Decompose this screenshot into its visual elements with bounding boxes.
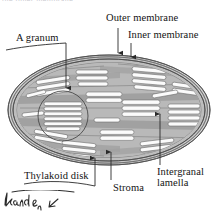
chloroplast-figure: the inner membrane	[0, 0, 219, 213]
label-outer-membrane: Outer membrane	[106, 12, 178, 23]
handwriting-stroke-sub-n	[38, 206, 41, 210]
handwriting-stroke-d	[25, 195, 30, 206]
label-intergranal-lamella-line2: lamella	[157, 177, 219, 188]
handwriting-underline	[12, 190, 74, 192]
handwritten-annotation	[2, 190, 88, 212]
label-intergranal-lamella-line1: Intergranal	[157, 166, 219, 177]
thylakoid-disk-leader-curve	[24, 182, 95, 186]
a-granum-leader-curve	[6, 43, 66, 50]
label-intergranal-lamella: Intergranal lamella	[157, 166, 219, 188]
label-a-granum: A granum	[16, 32, 59, 43]
handwriting-stroke-n	[20, 200, 23, 206]
granum-stack	[76, 70, 108, 86]
label-thylakoid-disk: Thylakoid disk	[24, 170, 89, 181]
label-stroma: Stroma	[113, 182, 144, 193]
handwriting-stroke-a	[14, 201, 19, 206]
handwriting-stroke-k	[5, 193, 12, 206]
granum-stack	[122, 100, 160, 116]
handwriting-stroke-amp	[33, 200, 37, 206]
label-inner-membrane: Inner membrane	[128, 29, 199, 40]
chloroplast-body	[8, 55, 210, 165]
handwriting-arrow	[49, 199, 58, 207]
